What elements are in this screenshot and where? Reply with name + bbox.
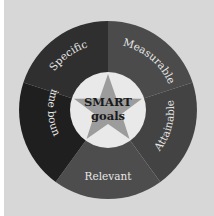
center-label-line2: goals [91,109,125,123]
center-label-line1: SMART [84,95,132,109]
segment-label-relevant: Relevant [85,170,133,182]
smart-goals-diagram: SMART goals Specific Measurable Attainab… [0,0,214,216]
